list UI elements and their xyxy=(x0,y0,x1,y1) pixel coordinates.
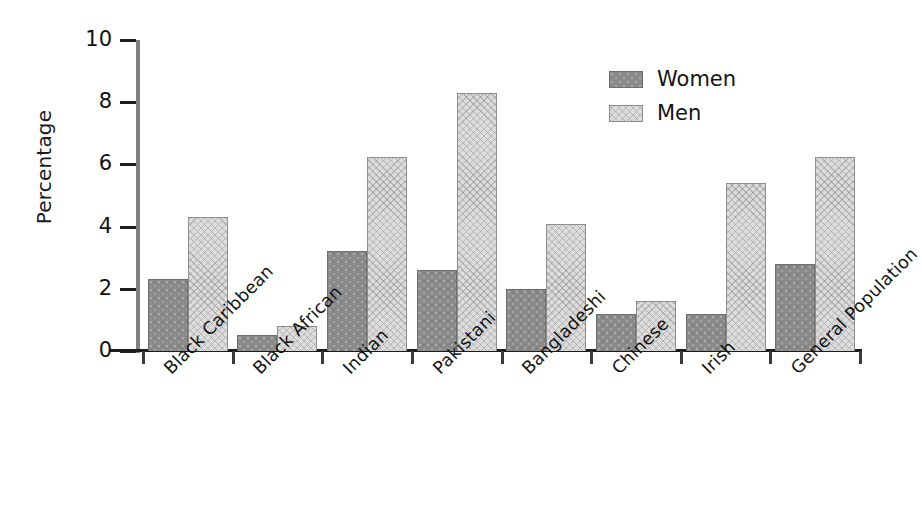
bar-men xyxy=(726,183,766,351)
bar-men xyxy=(367,157,407,351)
y-axis-title: Percentage xyxy=(32,77,56,257)
bar-women xyxy=(417,270,457,351)
x-tick-mark xyxy=(590,351,593,364)
plot-area xyxy=(143,40,860,351)
men-swatch xyxy=(609,105,643,122)
x-tick-mark xyxy=(232,351,235,364)
x-tick-mark xyxy=(321,351,324,364)
women-swatch xyxy=(609,71,643,88)
x-tick-mark xyxy=(680,351,683,364)
legend-label: Women xyxy=(657,69,736,90)
bar-women xyxy=(775,264,815,351)
legend-label: Men xyxy=(657,103,701,124)
y-tick-label: 2 xyxy=(72,278,112,299)
x-tick-mark xyxy=(859,351,862,364)
y-tick-label: 8 xyxy=(72,91,112,112)
y-tick-mark xyxy=(120,101,136,104)
y-tick-mark xyxy=(120,39,136,42)
y-tick-label: 6 xyxy=(72,153,112,174)
x-tick-mark xyxy=(501,351,504,364)
y-tick-mark xyxy=(120,288,136,291)
y-tick-mark xyxy=(120,226,136,229)
legend-item: Women xyxy=(609,62,736,96)
y-tick-mark xyxy=(120,350,136,353)
y-axis-line xyxy=(136,40,140,353)
y-tick-label: 0 xyxy=(72,340,112,361)
chart-legend: WomenMen xyxy=(609,62,736,130)
y-tick-mark xyxy=(120,163,136,166)
x-tick-mark xyxy=(769,351,772,364)
x-tick-mark xyxy=(411,351,414,364)
legend-item: Men xyxy=(609,96,736,130)
y-tick-label: 10 xyxy=(72,29,112,50)
x-tick-mark xyxy=(142,351,145,364)
y-tick-label: 4 xyxy=(72,216,112,237)
